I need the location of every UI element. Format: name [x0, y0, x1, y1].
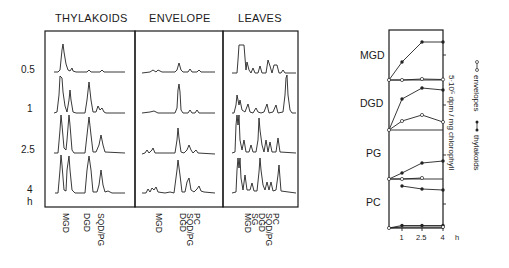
- x-tick-1: 1: [400, 233, 404, 242]
- trace-envelope-1h: [142, 84, 215, 113]
- open-circle-icon: [476, 69, 479, 72]
- peak-label-mgd: MGD: [154, 213, 164, 233]
- series-mgd-thylakoids: [389, 42, 443, 80]
- peak-labels-thylakoids: MGD DGD SQD/PG: [61, 213, 106, 246]
- y-axis-label: 5·10⁵ dpm / mg chlorophyll: [447, 75, 456, 171]
- trace-thylakoids-2.5h: [54, 115, 125, 153]
- trace-envelope-0.5h: [142, 63, 215, 73]
- trace-leaves-1h: [232, 75, 296, 113]
- lipid-label-dgd: DGD: [360, 97, 384, 109]
- row-label-0.5h: 0.5: [21, 64, 35, 75]
- series-dgd-thylakoids: [389, 88, 443, 130]
- header-leaves: LEAVES: [238, 12, 282, 24]
- x-tick-2.5: 2.5: [416, 233, 426, 242]
- frame-leaves: [223, 31, 298, 207]
- lipid-label-pg: PG: [366, 147, 381, 159]
- x-tick-4: 4: [441, 233, 445, 242]
- frame-envelope: [135, 31, 223, 207]
- legend-envelopes: envelopes: [472, 61, 481, 112]
- markers-thylakoids: [400, 40, 444, 227]
- row-unit-h: h: [27, 196, 33, 207]
- row-label-4h: 4: [27, 184, 33, 195]
- peak-labels-envelope: MGD DGD SQD/PG PC: [154, 213, 202, 246]
- trace-envelope-2.5h: [142, 128, 215, 154]
- header-envelope: ENVELOPE: [149, 12, 211, 24]
- lipid-label-mgd: MGD: [360, 49, 385, 61]
- legend-label-thylakoids: thylakoids: [472, 135, 481, 171]
- row-label-1h: 1: [27, 103, 33, 114]
- trace-thylakoids-1h: [54, 76, 125, 113]
- trace-thylakoids-4h: [55, 155, 125, 193]
- legend-thylakoids: thylakoids: [472, 121, 481, 171]
- peak-label-mgd: MGD: [61, 213, 71, 233]
- open-circle-icon: [476, 61, 479, 64]
- row-label-2.5h: 2.5: [21, 144, 35, 155]
- peak-label-pc: PC: [271, 213, 281, 225]
- legend-label-envelopes: envelopes: [472, 75, 481, 111]
- trace-leaves-4h: [232, 158, 296, 193]
- filled-circle-icon: [476, 121, 479, 124]
- series-dgd-envelopes: [389, 115, 443, 130]
- timecourse-frame: [389, 30, 443, 228]
- trace-thylakoids-0.5h: [54, 44, 125, 72]
- legend: envelopes thylakoids: [472, 61, 481, 171]
- series-pg-thylakoids: [389, 161, 443, 179]
- peak-label-dgd: DGD: [82, 213, 92, 232]
- trace-leaves-2.5h: [232, 115, 296, 153]
- markers-envelopes: [387, 77, 444, 229]
- lipid-label-pc: PC: [366, 196, 381, 208]
- frame-thylakoids: [45, 31, 135, 207]
- chromatogram-panel: THYLAKOIDS ENVELOPE LEAVES 0.5 1 2.5 4 h…: [21, 12, 298, 246]
- figure: THYLAKOIDS ENVELOPE LEAVES 0.5 1 2.5 4 h…: [0, 0, 509, 268]
- trace-leaves-0.5h: [232, 45, 296, 73]
- peak-label-sqd-pg: SQD/PG: [96, 213, 106, 246]
- peak-labels-leaves: MGD SG DGD SQD/PG PC: [243, 213, 281, 246]
- trace-envelope-4h: [142, 160, 215, 193]
- x-unit-h: h: [455, 233, 459, 242]
- peak-label-pc: PC: [192, 213, 202, 225]
- timecourse-panel: MGD DGD PG PC: [360, 30, 481, 242]
- header-thylakoids: THYLAKOIDS: [55, 12, 128, 24]
- filled-circle-icon: [476, 129, 479, 132]
